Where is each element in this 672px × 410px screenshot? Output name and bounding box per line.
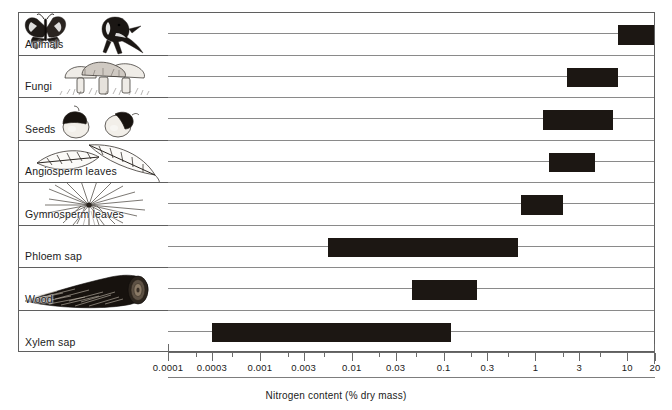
x-tick-minor: [379, 353, 380, 357]
range-bar-seeds: [543, 110, 613, 130]
x-tick-label: 20: [650, 362, 661, 373]
x-tick-minor: [563, 353, 564, 357]
grid-band: [168, 34, 654, 55]
x-tick-major: [212, 353, 213, 361]
x-tick-major: [304, 353, 305, 361]
range-bar-angiosperm-leaves: [549, 153, 595, 173]
category-label: Animals: [25, 38, 63, 50]
plot-area: [168, 12, 655, 352]
x-tick-major: [655, 353, 656, 361]
category-cell-gymnosperm-leaves: Gymnosperm leaves: [19, 183, 169, 226]
x-tick-label: 0.001: [247, 362, 272, 373]
category-cell-animals: Animals: [19, 13, 169, 56]
x-tick-minor: [600, 353, 601, 357]
category-cell-angiosperm-leaves: Angiosperm leaves: [19, 141, 169, 184]
range-bar-xylem-sap: [212, 323, 451, 343]
grid-band: [168, 204, 654, 225]
x-tick-label: 10: [622, 362, 633, 373]
grid-band: [168, 13, 654, 34]
category-cell-phloem-sap: Phloem sap: [19, 226, 169, 269]
x-tick-minor: [324, 353, 325, 357]
x-axis-caption: Nitrogen content (% dry mass): [0, 390, 672, 401]
x-tick-minor: [471, 353, 472, 357]
x-tick-label: 0.0001: [153, 362, 183, 373]
x-tick-major: [627, 353, 628, 361]
x-axis-underline: [168, 377, 655, 378]
range-bar-fungi: [567, 68, 619, 88]
category-label: Xylem sap: [25, 336, 75, 348]
x-tick-major: [487, 353, 488, 361]
x-tick-label: 3: [577, 362, 582, 373]
x-tick-major: [444, 353, 445, 361]
grid-band: [168, 183, 654, 204]
category-label: Gymnosperm leaves: [25, 208, 124, 220]
category-label: Seeds: [25, 123, 56, 135]
x-tick-major: [396, 353, 397, 361]
category-label: Fungi: [25, 80, 52, 92]
x-tick-major: [260, 353, 261, 361]
x-tick-label: 0.003: [291, 362, 316, 373]
range-bar-gymnosperm-leaves: [521, 195, 563, 215]
category-label: Wood: [25, 293, 53, 305]
x-tick-label: 1: [533, 362, 538, 373]
x-tick-major: [352, 353, 353, 361]
x-tick-major: [168, 353, 169, 361]
category-cell-fungi: Fungi: [19, 56, 169, 99]
x-tick-minor: [196, 353, 197, 357]
x-tick-label: 0.03: [386, 362, 405, 373]
category-label: Angiosperm leaves: [25, 165, 117, 177]
nitrogen-content-figure: Animals Fungi: [0, 0, 672, 410]
x-tick-major: [535, 353, 536, 361]
range-bar-wood: [412, 280, 477, 300]
x-tick-minor: [288, 353, 289, 357]
range-bar-animals: [618, 25, 655, 45]
range-bar-phloem-sap: [328, 238, 518, 258]
x-tick-minor: [232, 353, 233, 357]
x-tick-label: 0.0003: [197, 362, 227, 373]
x-tick-label: 0.1: [437, 362, 451, 373]
category-label: Phloem sap: [25, 250, 82, 262]
x-tick-major: [579, 353, 580, 361]
category-label-column: Animals Fungi: [18, 12, 168, 352]
x-axis-left-cap: [168, 344, 169, 353]
x-tick-label: 0.01: [342, 362, 361, 373]
category-cell-wood: Wood: [19, 268, 169, 311]
x-tick-label: 0.3: [481, 362, 495, 373]
x-tick-minor: [416, 353, 417, 357]
category-cell-xylem-sap: Xylem sap: [19, 311, 169, 354]
category-cell-seeds: Seeds: [19, 98, 169, 141]
x-tick-minor: [508, 353, 509, 357]
x-axis-line: [168, 352, 655, 353]
